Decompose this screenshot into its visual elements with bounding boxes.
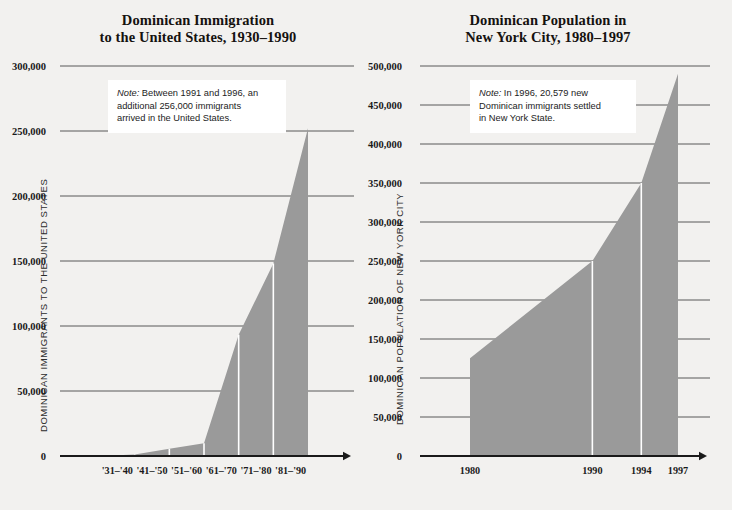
x-axis-arrow-icon: [699, 452, 707, 460]
y-axis-tick-label: 400,000: [340, 139, 402, 150]
chart-title-line-2: New York City, 1980–1997: [386, 29, 710, 46]
y-axis-tick-label: 300,000: [340, 217, 402, 228]
chart-panel-immigration: Dominican Immigration to the United Stat…: [0, 0, 366, 510]
y-axis-tick-label: 150,000: [0, 256, 46, 267]
x-axis-tick-label: 1980: [460, 465, 480, 476]
y-axis-tick-label: 200,000: [0, 191, 46, 202]
y-axis-tick-label: 250,000: [340, 256, 402, 267]
note-box-immigration: Note: Between 1991 and 1996, anadditiona…: [108, 80, 286, 133]
figure-page: Dominican Immigration to the United Stat…: [0, 0, 732, 510]
area-series: [100, 128, 308, 456]
y-axis-tick-label: 300,000: [0, 61, 46, 72]
x-axis-tick-label: 1994: [631, 465, 651, 476]
y-axis-tick-label: 150,000: [340, 334, 402, 345]
y-axis-tick-label: 100,000: [340, 373, 402, 384]
y-axis-tick-label: 0: [340, 451, 402, 462]
note-box-population: Note: In 1996, 20,579 newDominican immig…: [470, 80, 636, 133]
chart-title-immigration: Dominican Immigration to the United Stat…: [0, 12, 366, 46]
note-text-population: Note: In 1996, 20,579 newDominican immig…: [479, 88, 601, 123]
x-axis-tick-label: '41–'50: [136, 465, 167, 476]
y-axis-tick-label: 200,000: [340, 295, 402, 306]
note-text-immigration: Note: Between 1991 and 1996, anadditiona…: [117, 88, 258, 123]
x-axis-tick-label: 1997: [668, 465, 688, 476]
chart-panel-population: Dominican Population in New York City, 1…: [366, 0, 732, 510]
note-label: Note:: [117, 88, 139, 98]
x-axis-tick-label: '31–'40: [102, 465, 133, 476]
x-axis-tick-label: '51–'60: [171, 465, 202, 476]
y-axis-tick-label: 50,000: [340, 412, 402, 423]
note-label: Note:: [479, 88, 501, 98]
x-axis-tick-label: 1990: [582, 465, 602, 476]
x-axis-tick-label: '81–'90: [275, 465, 306, 476]
y-axis-tick-label: 100,000: [0, 321, 46, 332]
chart-title-population: Dominican Population in New York City, 1…: [366, 12, 732, 46]
y-axis-tick-label: 250,000: [0, 126, 46, 137]
y-axis-tick-label: 450,000: [340, 100, 402, 111]
y-axis-tick-label: 0: [0, 451, 46, 462]
chart-title-line-1: Dominican Population in: [386, 12, 710, 29]
x-axis-tick-label: '71–'80: [240, 465, 271, 476]
chart-title-line-2: to the United States, 1930–1990: [30, 29, 366, 46]
y-axis-tick-label: 50,000: [0, 386, 46, 397]
y-axis-label-population: DOMINICAN POPULATION OF NEW YORK CITY: [394, 193, 405, 425]
y-axis-tick-label: 350,000: [340, 178, 402, 189]
chart-title-line-1: Dominican Immigration: [30, 12, 366, 29]
x-axis-tick-label: '61–'70: [206, 465, 237, 476]
y-axis-tick-label: 500,000: [340, 61, 402, 72]
